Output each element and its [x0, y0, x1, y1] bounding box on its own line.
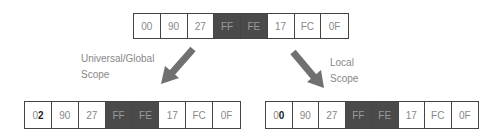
global-byte-row: 02 90 27 FF FE 17 FC 0F [24, 101, 241, 129]
source-byte-row: 00 90 27 FF FE 17 FC 0F [133, 13, 349, 39]
byte-cell: 00 [134, 14, 161, 38]
byte-cell-highlighted: FE [241, 14, 268, 38]
byte-cell: 17 [159, 102, 186, 128]
byte-cell: 17 [399, 102, 426, 128]
byte-cell: 90 [52, 102, 79, 128]
byte-cell: 90 [293, 102, 320, 128]
local-scope-label: Local Scope [330, 55, 358, 87]
arrow-down-left-icon [155, 44, 200, 89]
byte-cell: FC [425, 102, 452, 128]
byte-cell: 0F [452, 102, 478, 128]
byte-cell: FC [186, 102, 213, 128]
byte-cell-highlighted: FE [372, 102, 399, 128]
byte-cell-highlighted: FE [133, 102, 160, 128]
byte-cell-highlighted: FF [214, 14, 241, 38]
byte-cell: FC [295, 14, 322, 38]
byte-cell: 27 [79, 102, 106, 128]
byte-cell-modified: 00 [266, 102, 293, 128]
byte-cell: 0F [321, 14, 348, 38]
byte-cell-highlighted: FF [346, 102, 373, 128]
byte-cell: 0F [213, 102, 240, 128]
byte-cell-highlighted: FF [106, 102, 133, 128]
local-byte-row: 00 90 27 FF FE 17 FC 0F [265, 101, 479, 129]
byte-cell: 90 [161, 14, 188, 38]
byte-cell: 27 [319, 102, 346, 128]
byte-cell: 17 [268, 14, 295, 38]
byte-cell: 27 [188, 14, 215, 38]
arrow-down-right-icon [287, 46, 332, 91]
byte-cell-modified: 02 [25, 102, 52, 128]
global-scope-label: Universal/Global Scope [81, 51, 154, 83]
